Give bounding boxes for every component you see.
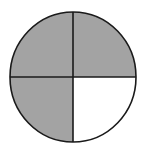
quarter-bottom-right [73,77,136,142]
fraction-circle-diagram [0,0,144,153]
quarter-top-right [73,12,136,77]
quarter-top-left [10,12,73,77]
circle-figure [0,0,144,153]
quarter-bottom-left [10,77,73,142]
